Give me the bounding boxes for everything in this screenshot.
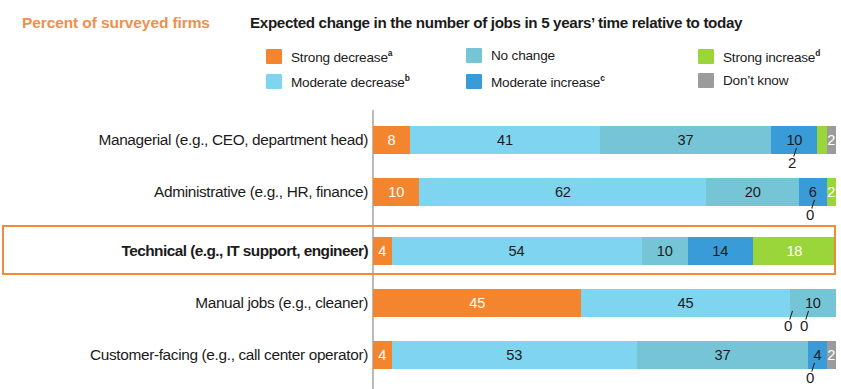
row-label: Managerial (e.g., CEO, department head) — [98, 114, 368, 166]
bar-segment-no-change[interactable]: 10 — [790, 289, 836, 317]
legend-title: Expected change in the number of jobs in… — [250, 14, 742, 31]
bar-segment-no-change[interactable]: 10 — [642, 237, 688, 265]
segment-value-moderate-decrease: 53 — [506, 347, 522, 363]
segment-value-moderate-decrease: 54 — [509, 243, 525, 259]
bar-segment-moderate-increase[interactable]: 14 — [688, 237, 753, 265]
bar-segment-dont-know[interactable]: 2 — [827, 126, 836, 154]
segment-value-moderate-increase: 6 — [809, 184, 817, 200]
legend-label-moderate-decrease: Moderate decreaseb — [291, 73, 410, 90]
legend-item-strong-decrease[interactable]: Strong decreasea — [266, 48, 392, 65]
legend: Strong decreaseaModerate decreasebNo cha… — [266, 48, 841, 96]
bar-segment-strong-increase[interactable]: 18 — [753, 237, 836, 265]
segment-value-strong-decrease: 45 — [469, 295, 485, 311]
bar-row: Manual jobs (e.g., cleaner)45451000 — [0, 277, 841, 329]
segment-value-strong-decrease: 8 — [388, 132, 396, 148]
legend-footnote-marker-moderate-increase: c — [600, 73, 604, 83]
row-label: Customer-facing (e.g., call center opera… — [90, 329, 368, 381]
bar-segment-strong-decrease[interactable]: 8 — [373, 126, 410, 154]
legend-item-moderate-increase[interactable]: Moderate increasec — [466, 73, 605, 90]
bar-segment-strong-increase[interactable]: 2 — [827, 178, 836, 206]
segment-value-no-change: 37 — [715, 347, 731, 363]
legend-item-strong-increase[interactable]: Strong increased — [698, 48, 820, 65]
legend-swatch-strong-decrease — [266, 49, 282, 64]
segment-value-moderate-decrease: 41 — [497, 132, 513, 148]
bar-segment-strong-decrease[interactable]: 4 — [373, 341, 392, 369]
row-label: Administrative (e.g., HR, finance) — [154, 166, 368, 218]
bar-segment-no-change[interactable]: 37 — [600, 126, 771, 154]
legend-item-no-change[interactable]: No change — [466, 48, 555, 63]
legend-swatch-moderate-decrease — [266, 74, 282, 89]
legend-swatch-strong-increase — [698, 49, 714, 64]
legend-label-strong-decrease: Strong decreasea — [291, 48, 392, 65]
bar-row: Managerial (e.g., CEO, department head)8… — [0, 114, 841, 166]
segment-value-moderate-decrease: 62 — [555, 184, 571, 200]
segment-value-moderate-increase: 4 — [813, 347, 821, 363]
stacked-bar: 454510 — [373, 289, 836, 317]
bar-segment-moderate-decrease[interactable]: 54 — [392, 237, 642, 265]
legend-label-no-change: No change — [491, 48, 555, 63]
segment-value-no-change: 37 — [678, 132, 694, 148]
bar-segment-strong-decrease[interactable]: 45 — [373, 289, 581, 317]
stacked-bar: 84137102 — [373, 126, 836, 154]
segment-value-dont-know: 2 — [827, 347, 835, 363]
row-label: Manual jobs (e.g., cleaner) — [195, 277, 368, 329]
segment-value-strong-increase: 2 — [827, 184, 835, 200]
bar-segment-strong-decrease[interactable]: 10 — [373, 178, 419, 206]
chart-plot-area: Managerial (e.g., CEO, department head)8… — [0, 106, 841, 389]
stacked-bar: 454101418 — [373, 237, 836, 265]
legend-item-moderate-decrease[interactable]: Moderate decreaseb — [266, 73, 410, 90]
segment-value-moderate-decrease: 45 — [678, 295, 694, 311]
dont-know-callout: 0 — [806, 206, 814, 223]
legend-footnote-marker-strong-decrease: a — [388, 48, 392, 58]
bar-segment-strong-decrease[interactable]: 4 — [373, 237, 392, 265]
segment-value-dont-know: 2 — [827, 132, 835, 148]
legend-label-dont-know: Don’t know — [723, 73, 788, 88]
legend-swatch-dont-know — [698, 73, 714, 88]
legend-swatch-moderate-increase — [466, 74, 482, 89]
segment-value-strong-decrease: 4 — [378, 347, 386, 363]
legend-label-strong-increase: Strong increased — [723, 48, 820, 65]
legend-item-dont-know[interactable]: Don’t know — [698, 73, 788, 88]
bar-row: Technical (e.g., IT support, engineer)45… — [0, 225, 841, 277]
strong-increase-callout: 0 — [806, 369, 814, 386]
legend-footnote-marker-moderate-decrease: b — [405, 73, 410, 83]
segment-value-strong-decrease: 4 — [378, 243, 386, 259]
bar-segment-moderate-decrease[interactable]: 53 — [392, 341, 637, 369]
segment-value-moderate-increase: 10 — [786, 132, 802, 148]
bar-segment-moderate-increase[interactable]: 4 — [808, 341, 827, 369]
legend-footnote-marker-strong-increase: d — [815, 48, 820, 58]
segment-value-strong-decrease: 10 — [388, 184, 404, 200]
legend-swatch-no-change — [466, 48, 482, 63]
unit-label: Percent of surveyed firms — [22, 14, 210, 32]
segment-value-no-change: 10 — [805, 295, 821, 311]
bar-segment-strong-increase[interactable] — [817, 126, 826, 154]
bar-segment-moderate-decrease[interactable]: 41 — [410, 126, 600, 154]
bar-segment-no-change[interactable]: 20 — [706, 178, 799, 206]
segment-value-no-change: 20 — [745, 184, 761, 200]
bar-row: Administrative (e.g., HR, finance)106220… — [0, 166, 841, 218]
stacked-bar: 10622062 — [373, 178, 836, 206]
bar-segment-no-change[interactable]: 37 — [637, 341, 808, 369]
bar-segment-moderate-decrease[interactable]: 45 — [581, 289, 789, 317]
segment-value-moderate-increase: 14 — [712, 243, 728, 259]
stacked-bar: 4533742 — [373, 341, 836, 369]
row-label: Technical (e.g., IT support, engineer) — [122, 225, 368, 277]
segment-value-strong-increase: 18 — [786, 243, 802, 259]
chart-header: Percent of surveyed firms Expected chang… — [0, 0, 841, 106]
bar-segment-moderate-decrease[interactable]: 62 — [419, 178, 706, 206]
legend-label-moderate-increase: Moderate increasec — [491, 73, 605, 90]
segment-value-no-change: 10 — [657, 243, 673, 259]
bar-segment-dont-know[interactable]: 2 — [827, 341, 836, 369]
bar-row: Customer-facing (e.g., call center opera… — [0, 329, 841, 381]
